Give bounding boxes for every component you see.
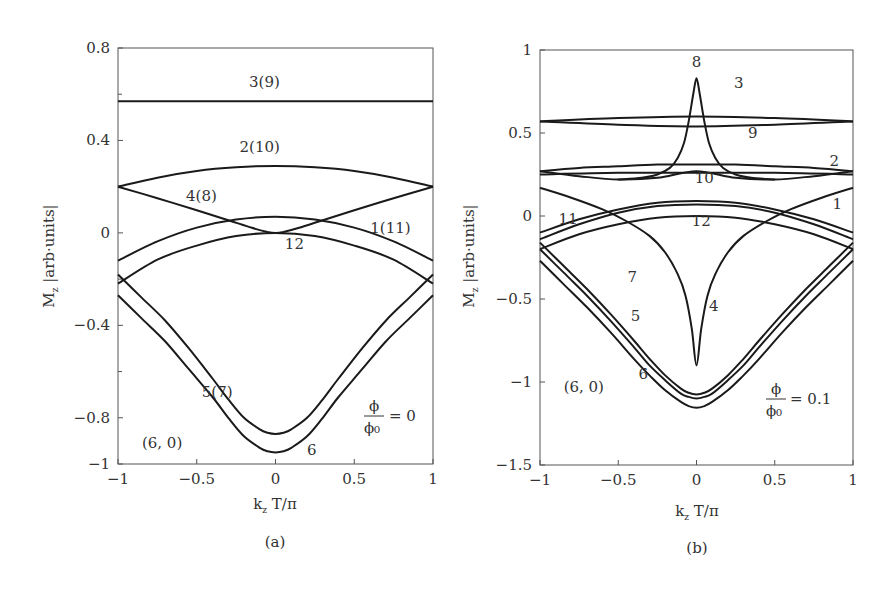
curve-5(7): [118, 275, 433, 435]
y-tick-label: −0.8: [74, 409, 110, 427]
curve-annotation: 7: [628, 268, 638, 286]
curve-annotation: 3(9): [249, 73, 280, 91]
curve-annotation: 1: [833, 195, 843, 213]
curve-annotation: 4(8): [186, 187, 217, 205]
y-tick-label: −1: [88, 455, 110, 473]
y-tick-label: 0.5: [508, 124, 532, 142]
y-axis-label-a: Mz |arb·units|: [40, 204, 60, 307]
panel-a: −1−0.500.510.80.40−0.4−0.8−1 3(9)2(10)4(…: [40, 39, 438, 551]
curve-annotation: 5(7): [202, 383, 233, 401]
curve-annotation: 5: [631, 307, 641, 325]
figure: −1−0.500.510.80.40−0.4−0.8−1 3(9)2(10)4(…: [0, 0, 887, 593]
tick-labels-a: −1−0.500.510.80.40−0.4−0.8−1: [74, 39, 438, 488]
curve-annotation: 12: [692, 212, 711, 230]
curve-3: [540, 116, 853, 121]
y-axis-label-b: Mz |arb·units|: [460, 204, 480, 307]
curve-2(10): [118, 166, 433, 187]
curve-annotation: 8: [692, 53, 702, 71]
curves-b: [540, 78, 853, 408]
flux-denominator-b: ϕ₀: [766, 402, 782, 420]
flux-numerator-a: ϕ: [369, 397, 379, 415]
curve-9: [540, 121, 853, 126]
panel-label-a: (a): [265, 533, 286, 551]
y-tick-label: 0: [522, 207, 532, 225]
x-tick-label: 1: [848, 471, 858, 489]
x-axis-label-a: kz T/π: [253, 495, 297, 515]
curve-annotation: 11: [559, 210, 578, 228]
y-tick-label: 0.4: [86, 131, 110, 149]
x-tick-label: 1: [428, 470, 438, 488]
tick-labels-b: −1−0.500.5110.50−0.5−1−1.5: [496, 41, 858, 489]
curve-annotation: (6, 0): [564, 378, 604, 396]
x-tick-label: −0.5: [600, 471, 636, 489]
y-tick-label: −1: [510, 373, 532, 391]
x-tick-label: −1: [529, 471, 551, 489]
flux-value-a: = 0: [389, 407, 416, 425]
curve-annotation: 10: [695, 169, 714, 187]
flux-label-a: ϕ ϕ₀ = 0: [364, 397, 416, 437]
x-tick-label: 0: [692, 471, 702, 489]
flux-numerator-b: ϕ: [771, 380, 781, 398]
flux-value-b: = 0.1: [790, 390, 831, 408]
flux-label-b: ϕ ϕ₀ = 0.1: [766, 380, 831, 420]
curve-annotation: 9: [748, 124, 758, 142]
x-tick-label: 0.5: [763, 471, 787, 489]
y-tick-label: −0.5: [496, 290, 532, 308]
curve-annotation: 2(10): [240, 138, 280, 156]
x-tick-label: −1: [107, 470, 129, 488]
panel-b: −1−0.500.5110.50−0.5−1−1.5 8392101111274…: [460, 41, 858, 557]
curve-annotation: 3: [734, 74, 744, 92]
curve-annotation: 6: [639, 365, 649, 383]
curve-12: [118, 233, 433, 284]
y-tick-label: 0: [100, 224, 110, 242]
curve-annotation: 1(11): [370, 219, 410, 237]
curve-annotation: 2: [829, 152, 839, 170]
x-tick-label: −0.5: [179, 470, 215, 488]
x-axis-label-b: kz T/π: [675, 502, 719, 522]
y-tick-label: −0.4: [74, 316, 110, 334]
y-tick-label: 0.8: [86, 39, 110, 57]
curve-annotation: (6, 0): [142, 434, 182, 452]
y-tick-label: −1.5: [496, 456, 532, 474]
x-tick-label: 0: [271, 470, 281, 488]
curve-6: [118, 295, 433, 452]
panel-label-b: (b): [686, 539, 707, 557]
x-tick-label: 0.5: [342, 470, 366, 488]
curve-annotation: 12: [285, 235, 304, 253]
curve-annotation: 4: [709, 297, 719, 315]
curve-annotation: 6: [307, 441, 317, 459]
curve-7: [540, 243, 853, 395]
flux-denominator-a: ϕ₀: [364, 419, 380, 437]
y-tick-label: 1: [522, 41, 532, 59]
curve-5: [540, 249, 853, 398]
